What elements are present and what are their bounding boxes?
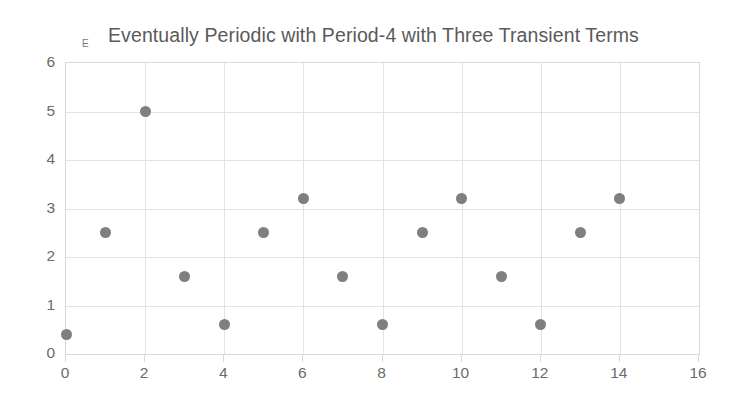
data-point xyxy=(140,106,151,117)
y-axis-tick-label: 5 xyxy=(9,102,55,120)
x-axis-tick-mark xyxy=(65,355,66,362)
x-axis-tick-mark xyxy=(302,355,303,362)
data-point xyxy=(377,319,388,330)
gridline-vertical xyxy=(620,63,621,354)
x-axis-tick-label: 2 xyxy=(124,364,164,382)
chart-title: Eventually Periodic with Period-4 with T… xyxy=(108,24,639,47)
x-axis-tick-mark xyxy=(461,355,462,362)
data-point xyxy=(535,319,546,330)
data-point xyxy=(258,227,269,238)
x-axis-tick-mark xyxy=(619,355,620,362)
x-axis-tick-label: 14 xyxy=(599,364,639,382)
y-axis-tick-label: 6 xyxy=(9,53,55,71)
data-point xyxy=(417,227,428,238)
x-axis-tick-label: 16 xyxy=(678,364,718,382)
y-axis-tick-label: 4 xyxy=(9,150,55,168)
data-point xyxy=(61,329,72,340)
x-axis-tick-label: 8 xyxy=(362,364,402,382)
x-axis-tick-label: 6 xyxy=(282,364,322,382)
data-point xyxy=(496,271,507,282)
data-point xyxy=(337,271,348,282)
x-axis-tick-label: 12 xyxy=(520,364,560,382)
y-axis-tick-label: 1 xyxy=(9,296,55,314)
title-row: E Eventually Periodic with Period-4 with… xyxy=(0,12,742,44)
y-axis-tick-label: 2 xyxy=(9,247,55,265)
gridline-vertical xyxy=(224,63,225,354)
chart-figure: E Eventually Periodic with Period-4 with… xyxy=(0,0,742,408)
x-axis-tick-label: 0 xyxy=(45,364,85,382)
data-point xyxy=(100,227,111,238)
y-axis-tick-label: 0 xyxy=(9,344,55,362)
data-point xyxy=(298,193,309,204)
y-axis-tick-labels: 0123456 xyxy=(0,62,55,355)
data-point xyxy=(219,319,230,330)
gridline-vertical xyxy=(541,63,542,354)
y-axis-tick-label: 3 xyxy=(9,199,55,217)
data-point xyxy=(575,227,586,238)
series-marker-label: E xyxy=(82,38,89,49)
x-axis-tick-labels: 0246810121416 xyxy=(65,364,710,388)
plot-area xyxy=(65,62,700,355)
x-axis-tick-marks xyxy=(65,355,701,363)
x-axis-tick-mark xyxy=(698,355,699,362)
x-axis-tick-mark xyxy=(540,355,541,362)
data-point xyxy=(614,193,625,204)
x-axis-tick-mark xyxy=(223,355,224,362)
gridline-vertical xyxy=(383,63,384,354)
data-point xyxy=(179,271,190,282)
data-point xyxy=(456,193,467,204)
x-axis-tick-mark xyxy=(144,355,145,362)
x-axis-tick-mark xyxy=(382,355,383,362)
x-axis-tick-label: 4 xyxy=(203,364,243,382)
gridline-vertical xyxy=(462,63,463,354)
x-axis-tick-label: 10 xyxy=(441,364,481,382)
gridline-vertical xyxy=(303,63,304,354)
